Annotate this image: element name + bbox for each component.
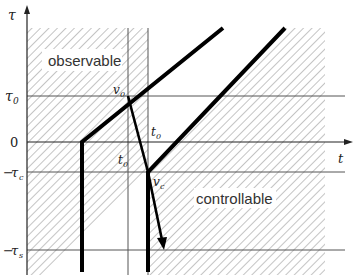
svg-text:c: c [160,182,165,191]
t-axis-arrow-icon [344,139,353,145]
svg-text:0: 0 [120,90,125,99]
svg-text:v: v [113,83,120,97]
svg-text:τ: τ [5,88,13,104]
y-tick-minus-tauc: − τ c [3,165,24,182]
svg-text:0: 0 [13,96,19,106]
y-tick-tau0: τ 0 [5,88,19,106]
svg-text:τ: τ [11,243,19,258]
svg-text:s: s [19,251,23,260]
controllable-label: controllable [196,190,273,207]
svg-text:τ: τ [11,165,19,180]
tau-axis-arrow-icon [24,5,30,14]
point-label-t0-upper: t 0 [151,125,161,141]
observable-controllable-diagram: τ t τ 0 0 − τ c − τ s observable control… [0,0,362,280]
y-tick-zero: 0 [10,135,18,150]
y-tick-minus-taus: − τ s [3,243,23,260]
svg-text:0: 0 [156,132,161,141]
observable-label: observable [48,52,121,69]
svg-text:v: v [153,175,160,189]
tau-axis-label: τ [8,7,16,23]
t-axis-label: t [338,151,344,166]
svg-text:0: 0 [123,160,128,169]
svg-text:c: c [19,173,24,182]
